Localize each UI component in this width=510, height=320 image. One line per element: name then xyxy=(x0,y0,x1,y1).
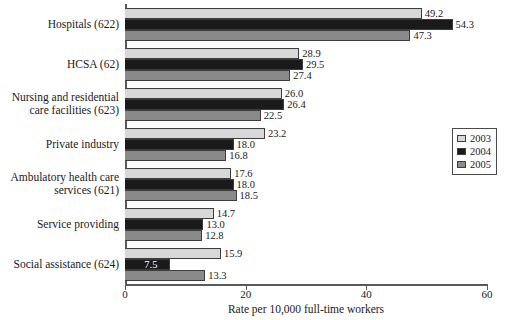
bar xyxy=(125,270,205,281)
legend-label: 2003 xyxy=(470,133,491,144)
bar-row: 13.0 xyxy=(125,219,487,230)
bar-row: 47.3 xyxy=(125,30,487,41)
bar-value-label: 54.3 xyxy=(453,19,474,30)
bar-row: 13.3 xyxy=(125,270,487,281)
bar xyxy=(125,110,261,121)
bar-group: 17.618.018.5 xyxy=(125,164,487,204)
bar-row: 49.2 xyxy=(125,8,487,19)
bar-value-label: 29.5 xyxy=(303,59,324,70)
bar-value-label: 23.2 xyxy=(265,128,286,139)
category-label: Ambulatory health care services (621) xyxy=(0,171,119,197)
legend-label: 2005 xyxy=(470,159,491,170)
category-label: HCSA (62) xyxy=(0,58,119,71)
legend-swatch-icon xyxy=(457,135,466,142)
bar-value-label: 16.8 xyxy=(226,150,247,161)
bar-value-label: 28.9 xyxy=(299,48,320,59)
bar-row: 26.4 xyxy=(125,99,487,110)
bar xyxy=(125,190,237,201)
bar-value-label: 18.0 xyxy=(234,179,255,190)
bar xyxy=(125,150,226,161)
bar xyxy=(125,48,299,59)
bar-row: 16.8 xyxy=(125,150,487,161)
x-tick-label: 60 xyxy=(482,288,493,300)
legend-swatch-icon xyxy=(457,161,466,168)
bar-value-label: 14.7 xyxy=(214,208,235,219)
x-tick-label: 20 xyxy=(240,288,251,300)
bar-row: 54.3 xyxy=(125,19,487,30)
bar-row: 14.7 xyxy=(125,208,487,219)
bar-value-label: 15.9 xyxy=(221,248,242,259)
bar xyxy=(125,219,203,230)
bar-group: 26.026.422.5 xyxy=(125,84,487,124)
legend-item: 2005 xyxy=(457,158,491,171)
bar-value-label: 47.3 xyxy=(410,30,431,41)
bar-group: 15.97.513.3 xyxy=(125,244,487,284)
bar-row: 18.0 xyxy=(125,139,487,150)
bar xyxy=(125,128,265,139)
chart-legend: 200320042005 xyxy=(452,128,497,175)
bar xyxy=(125,248,221,259)
bar-value-label: 26.0 xyxy=(282,88,303,99)
bar xyxy=(125,19,453,30)
bar-value-label: 7.5 xyxy=(144,259,157,270)
bar xyxy=(125,30,410,41)
bar xyxy=(125,179,234,190)
bar-row: 17.6 xyxy=(125,168,487,179)
x-axis-line xyxy=(125,284,488,286)
bar-row: 26.0 xyxy=(125,88,487,99)
bar-value-label: 26.4 xyxy=(284,99,305,110)
bar-value-label: 22.5 xyxy=(261,110,282,121)
bar-value-label: 27.4 xyxy=(290,70,311,81)
bar-group: 28.929.527.4 xyxy=(125,44,487,84)
bar-row: 28.9 xyxy=(125,48,487,59)
bar-row: 22.5 xyxy=(125,110,487,121)
legend-item: 2003 xyxy=(457,132,491,145)
bar-group: 14.713.012.8 xyxy=(125,204,487,244)
x-tick-label: 0 xyxy=(122,288,128,300)
bar-value-label: 49.2 xyxy=(422,8,443,19)
bar xyxy=(125,230,202,241)
category-label: Social assistance (624) xyxy=(0,258,119,271)
category-label: Private industry xyxy=(0,138,119,151)
bar-value-label: 18.5 xyxy=(237,190,258,201)
bar-value-label: 13.0 xyxy=(203,219,224,230)
bar-row: 7.5 xyxy=(125,259,487,270)
bar-row: 12.8 xyxy=(125,230,487,241)
bar-row: 23.2 xyxy=(125,128,487,139)
category-label: Hospitals (622) xyxy=(0,18,119,31)
bar-value-label: 17.6 xyxy=(231,168,252,179)
bar xyxy=(125,8,422,19)
bar xyxy=(125,208,214,219)
bar-row: 29.5 xyxy=(125,59,487,70)
plot-area: 49.254.347.328.929.527.426.026.422.523.2… xyxy=(125,4,487,284)
bar-chart: Hospitals (622)HCSA (62)Nursing and resi… xyxy=(0,0,510,320)
bar xyxy=(125,70,290,81)
bar-group: 23.218.016.8 xyxy=(125,124,487,164)
bar-row: 18.0 xyxy=(125,179,487,190)
legend-swatch-icon xyxy=(457,148,466,155)
bar-value-label: 12.8 xyxy=(202,230,223,241)
bar xyxy=(125,168,231,179)
bar-value-label: 13.3 xyxy=(205,270,226,281)
category-label: Nursing and residential care facilities … xyxy=(0,91,119,117)
bar-value-label: 18.0 xyxy=(234,139,255,150)
bar-group: 49.254.347.3 xyxy=(125,4,487,44)
bar-row: 27.4 xyxy=(125,70,487,81)
category-label: Service providing xyxy=(0,218,119,231)
bar xyxy=(125,59,303,70)
bar xyxy=(125,99,284,110)
legend-label: 2004 xyxy=(470,146,491,157)
x-axis-title: Rate per 10,000 full-time workers xyxy=(125,303,487,315)
bar xyxy=(125,139,234,150)
bar xyxy=(125,88,282,99)
x-tick-label: 40 xyxy=(361,288,372,300)
bar-row: 15.9 xyxy=(125,248,487,259)
bar-row: 18.5 xyxy=(125,190,487,201)
legend-item: 2004 xyxy=(457,145,491,158)
